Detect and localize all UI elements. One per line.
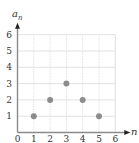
y-tick-label: 6 bbox=[6, 30, 12, 40]
x-tick-label: 3 bbox=[64, 134, 70, 143]
data-point bbox=[47, 97, 53, 103]
x-axis-label: n bbox=[131, 126, 137, 137]
data-point bbox=[31, 113, 37, 119]
x-tick-label: 4 bbox=[80, 134, 86, 143]
x-tick-label: 0 bbox=[15, 134, 21, 143]
y-tick-label: 2 bbox=[6, 95, 12, 105]
y-tick-label: 4 bbox=[6, 62, 12, 72]
y-tick-label: 3 bbox=[6, 79, 12, 89]
data-point bbox=[63, 81, 69, 87]
y-axis-label-subscript: n bbox=[18, 14, 23, 22]
y-axis-arrow-icon bbox=[15, 23, 20, 29]
x-tick-label: 1 bbox=[31, 134, 37, 143]
tick-labels: 0123456123456 bbox=[6, 30, 118, 143]
x-axis-arrow-icon bbox=[124, 130, 130, 135]
data-point bbox=[80, 97, 86, 103]
y-axis-label: an bbox=[12, 8, 23, 22]
x-tick-label: 5 bbox=[96, 134, 102, 143]
x-tick-label: 2 bbox=[47, 134, 53, 143]
y-tick-label: 1 bbox=[6, 111, 12, 121]
data-point bbox=[96, 113, 102, 119]
y-tick-label: 5 bbox=[6, 46, 12, 56]
sequence-plot: 0123456123456 an n bbox=[0, 0, 139, 143]
x-tick-label: 6 bbox=[112, 134, 118, 143]
